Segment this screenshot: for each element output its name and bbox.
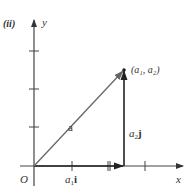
vector-a xyxy=(34,71,123,166)
y-axis-label: y xyxy=(41,16,47,28)
vector-a2j-label: a2j xyxy=(129,127,142,141)
vector-a-label: a xyxy=(68,121,73,133)
origin-label: O xyxy=(20,173,28,185)
vector-a1i-label: a1i xyxy=(65,173,77,187)
vector-diagram: (ii) y x O a (a₁, a₂) a1i a2j xyxy=(0,0,188,193)
x-axis-label: x xyxy=(175,173,181,185)
y-axis xyxy=(29,20,39,186)
panel-label: (ii) xyxy=(3,18,15,30)
point-marker xyxy=(122,68,126,72)
point-label: (a₁, a₂) xyxy=(131,64,160,76)
